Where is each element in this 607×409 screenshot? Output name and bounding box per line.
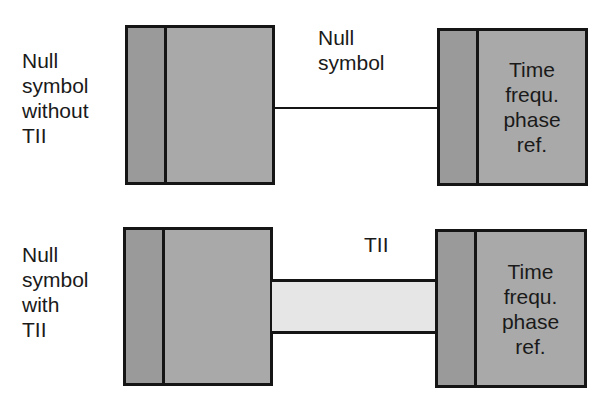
tii-band: [272, 279, 437, 334]
side-label-line: without: [22, 98, 89, 123]
side-label-line: symbol: [22, 73, 89, 98]
phase-ref-label-line: ref.: [502, 334, 559, 359]
guard-interval-strip: [126, 230, 165, 383]
phase-ref-label-line: frequ.: [502, 284, 559, 309]
side-label-line: TII: [22, 123, 89, 148]
phase-ref-label-line: Time: [502, 259, 559, 284]
phase-ref-label: Time frequ. phase ref.: [479, 31, 585, 183]
side-label-line: symbol: [22, 267, 89, 292]
phase-ref-label: Time frequ. phase ref.: [477, 232, 584, 385]
connector-label-line: TII: [364, 233, 389, 256]
phase-ref-label-line: Time: [503, 57, 560, 82]
phase-ref-label-line: ref.: [503, 132, 560, 157]
connector-label-line: Null: [318, 25, 385, 50]
side-label-line: TII: [22, 317, 89, 342]
side-label-line: Null: [22, 48, 89, 73]
null-symbol-line: [274, 107, 438, 109]
connector-label-line: symbol: [318, 50, 385, 75]
side-label-without-tii: Null symbol without TII: [22, 48, 89, 148]
time-frequ-phase-ref-box: Time frequ. phase ref.: [435, 229, 587, 388]
preceding-symbol-box: [125, 25, 275, 185]
phase-ref-label-line: phase: [503, 107, 560, 132]
time-frequ-phase-ref-box: Time frequ. phase ref.: [437, 28, 588, 186]
phase-ref-label-line: phase: [502, 309, 559, 334]
guard-interval-strip: [440, 31, 479, 183]
side-label-line: Null: [22, 242, 89, 267]
preceding-symbol-box: [123, 227, 273, 386]
guard-interval-strip: [438, 232, 477, 385]
side-label-line: with: [22, 292, 89, 317]
connector-label-null-symbol: Null symbol: [318, 25, 385, 75]
phase-ref-label-line: frequ.: [503, 82, 560, 107]
guard-interval-strip: [128, 28, 167, 182]
connector-label-tii: TII: [364, 232, 389, 257]
side-label-with-tii: Null symbol with TII: [22, 242, 89, 342]
